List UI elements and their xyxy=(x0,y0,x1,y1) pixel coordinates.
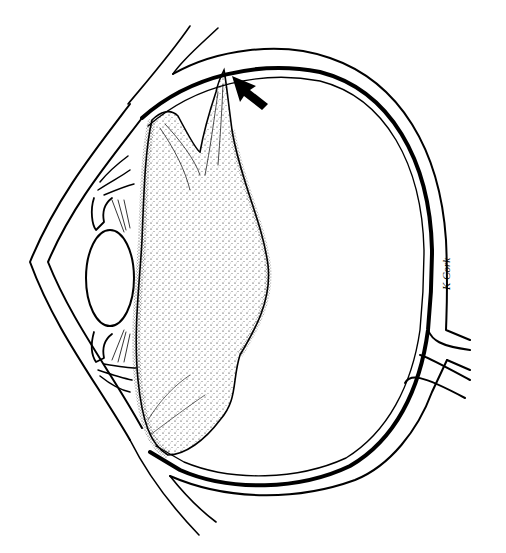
eye-illustration xyxy=(0,0,506,553)
arrow-annotation xyxy=(232,76,268,110)
iris-upper xyxy=(92,156,134,232)
artist-signature: K Cork xyxy=(440,258,452,290)
eye-diagram: K Cork xyxy=(0,0,506,553)
vitreous-body xyxy=(136,70,268,455)
lens xyxy=(86,230,134,326)
